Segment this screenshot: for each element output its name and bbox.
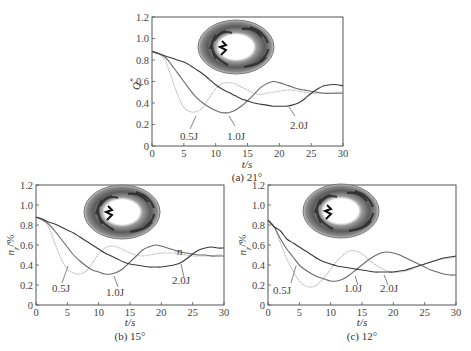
x-tick-label: 25 [187, 307, 198, 318]
x-tick-label: 5 [181, 148, 186, 159]
svg-text:1.0J: 1.0J [344, 282, 363, 294]
annotation-two: 2.0J [380, 275, 399, 294]
svg-text:1.0J: 1.0J [106, 286, 125, 298]
y-tick-label: 1.2 [252, 180, 265, 191]
y-tick-label: 1.2 [20, 180, 33, 191]
y-tick-label: 0.8 [252, 220, 265, 231]
annotation-two: 2.0J [289, 107, 309, 131]
svg-text:0.5J: 0.5J [180, 130, 199, 142]
x-tick-label: 30 [451, 307, 462, 318]
x-tick-label: 0 [149, 148, 154, 159]
annotation-half: 0.5J [180, 116, 199, 142]
y-tick-label: 0.4 [20, 260, 34, 271]
svg-text:2.0J: 2.0J [380, 282, 399, 294]
impeller-image-icon [84, 185, 160, 239]
x-tick-label: 30 [219, 307, 230, 318]
y-tick-label: 0.6 [252, 240, 265, 251]
x-tick-label: 20 [274, 148, 285, 159]
x-tick-label: 0 [265, 307, 270, 318]
svg-text:0.5J: 0.5J [273, 284, 292, 296]
x-axis-label: t/s [125, 316, 135, 328]
panel-a: 05101520253000.20.40.60.81.01.2 Q* t/s (… [129, 12, 349, 185]
impeller-image-icon [198, 20, 274, 74]
y-tick-label: 0.4 [252, 260, 266, 271]
y-axis-label: nr/% [236, 235, 253, 256]
x-tick-label: 5 [297, 307, 302, 318]
y-tick-label: 0.2 [20, 280, 33, 291]
svg-text:0.5J: 0.5J [52, 282, 71, 294]
y-tick-label: 0 [260, 300, 265, 311]
x-tick-label: 25 [306, 148, 317, 159]
caption-b: (b) 15° [115, 330, 146, 343]
panel-c: 05101520253000.20.40.60.81.01.2 nr/% t/s… [236, 180, 461, 344]
y-tick-label: 0.8 [136, 55, 149, 66]
figure: 05101520253000.20.40.60.81.01.2 Q* t/s (… [0, 0, 471, 351]
y-tick-label: 0.8 [20, 220, 33, 231]
caption-c: (c) 12° [347, 330, 377, 343]
y-tick-label: 1.2 [136, 12, 149, 23]
x-tick-label: 5 [65, 307, 70, 318]
annotation-one: 1.0J [344, 276, 363, 294]
svg-text:1.0J: 1.0J [227, 130, 246, 142]
x-tick-label: 10 [325, 307, 336, 318]
x-tick-label: 20 [156, 307, 167, 318]
y-axis-label: nr/% [4, 235, 21, 256]
y-tick-label: 1.0 [20, 200, 33, 211]
svg-text:2.0J: 2.0J [290, 119, 309, 131]
annotation-n: n [177, 245, 183, 257]
impeller-image-icon [303, 184, 379, 238]
y-tick-label: 0.2 [252, 280, 265, 291]
x-tick-label: 10 [93, 307, 104, 318]
y-tick-label: 0 [28, 300, 33, 311]
y-tick-label: 0.6 [20, 240, 33, 251]
x-axis-label: t/s [242, 158, 252, 170]
annotation-half: 0.5J [52, 266, 71, 294]
x-tick-label: 10 [210, 148, 221, 159]
y-tick-label: 0.2 [136, 119, 149, 130]
x-tick-label: 20 [388, 307, 399, 318]
y-tick-label: 1.0 [252, 200, 265, 211]
x-tick-label: 25 [419, 307, 430, 318]
x-axis-label: t/s [357, 316, 367, 328]
y-tick-label: 0.4 [136, 98, 150, 109]
svg-text:2.0J: 2.0J [172, 274, 191, 286]
annotation-two: 2.0J [172, 264, 191, 286]
annotation-one: 1.0J [106, 276, 125, 298]
panel-b: 05101520253000.20.40.60.81.01.2 nr/% t/s… [4, 180, 229, 344]
y-tick-label: 0 [144, 141, 149, 152]
y-tick-label: 1.0 [136, 33, 149, 44]
annotation-one: 1.0J [227, 116, 246, 142]
x-tick-label: 30 [338, 148, 349, 159]
x-tick-label: 0 [33, 307, 38, 318]
